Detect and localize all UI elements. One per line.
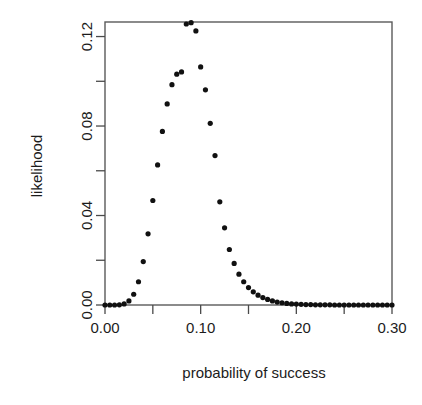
x-axis-tick-labels: 0.000.100.200.30 [90, 319, 406, 336]
data-point [150, 198, 155, 203]
likelihood-scatter-figure: 0.000.100.200.30 0.000.040.080.12 probab… [0, 0, 422, 405]
data-point [265, 297, 270, 302]
data-point [356, 302, 361, 307]
data-point [275, 299, 280, 304]
data-point [145, 231, 150, 236]
x-axis-title: probability of success [182, 364, 325, 381]
data-point [198, 64, 203, 69]
y-tick-label: 0.08 [78, 111, 95, 140]
data-point [112, 302, 117, 307]
data-point [126, 298, 131, 303]
data-point [222, 225, 227, 230]
data-point [361, 302, 366, 307]
x-tick-label: 0.20 [282, 319, 311, 336]
x-tick-label: 0.30 [377, 319, 406, 336]
data-point [289, 301, 294, 306]
data-point [380, 302, 385, 307]
data-point [375, 302, 380, 307]
y-tick-label: 0.04 [78, 201, 95, 230]
data-point [212, 153, 217, 158]
data-point [227, 247, 232, 252]
data-point [165, 101, 170, 106]
data-point [160, 129, 165, 134]
y-tick-label: 0.00 [78, 290, 95, 319]
y-axis-ticks [96, 37, 105, 305]
data-point [141, 259, 146, 264]
data-point [255, 293, 260, 298]
data-point [155, 162, 160, 167]
y-axis-title: likelihood [28, 135, 45, 198]
data-point [203, 87, 208, 92]
data-point [327, 302, 332, 307]
data-point [169, 82, 174, 87]
data-point [174, 72, 179, 77]
data-point [337, 302, 342, 307]
data-point [318, 302, 323, 307]
data-point [217, 199, 222, 204]
data-point [251, 289, 256, 294]
data-point [189, 20, 194, 25]
data-point [370, 302, 375, 307]
data-point [303, 302, 308, 307]
data-point [131, 292, 136, 297]
data-point [232, 261, 237, 266]
data-point [117, 302, 122, 307]
data-point [270, 298, 275, 303]
data-point [179, 69, 184, 74]
data-point [193, 28, 198, 33]
data-point [102, 302, 107, 307]
data-point [136, 279, 141, 284]
data-point [107, 302, 112, 307]
data-point [241, 279, 246, 284]
data-point [299, 302, 304, 307]
data-point [122, 301, 127, 306]
data-point [246, 285, 251, 290]
data-point [365, 302, 370, 307]
data-point [294, 302, 299, 307]
plot-frame [105, 22, 392, 305]
data-point [260, 295, 265, 300]
data-point [208, 121, 213, 126]
data-point [322, 302, 327, 307]
data-point [184, 21, 189, 26]
x-tick-label: 0.10 [186, 319, 215, 336]
data-point [313, 302, 318, 307]
data-point [284, 301, 289, 306]
data-point [346, 302, 351, 307]
data-point [332, 302, 337, 307]
data-point [385, 302, 390, 307]
data-point [351, 302, 356, 307]
plot-canvas: 0.000.100.200.30 0.000.040.080.12 probab… [0, 0, 422, 405]
data-point [389, 302, 394, 307]
y-tick-label: 0.12 [78, 22, 95, 51]
data-point [342, 302, 347, 307]
data-point [308, 302, 313, 307]
data-point-series [102, 20, 394, 308]
data-point [279, 300, 284, 305]
x-tick-label: 0.00 [90, 319, 119, 336]
data-point [236, 272, 241, 277]
y-axis-tick-labels: 0.000.040.080.12 [78, 22, 95, 320]
